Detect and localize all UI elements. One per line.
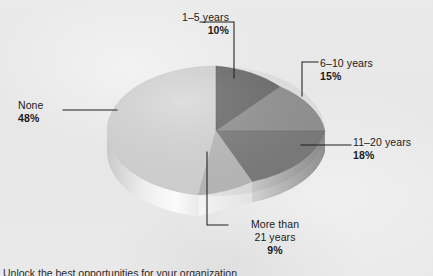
callout-label-11-20-years: 11–20 years 18% (353, 136, 431, 162)
callout-text-6-10-years: 6–10 years (320, 57, 425, 70)
callout-label-1-5-years: 1–5 years 10% (129, 11, 229, 37)
callout-text-more-than-21-line1: More than (232, 218, 318, 231)
callout-pct-more-than-21: 9% (232, 244, 318, 257)
callout-text-none: None (18, 99, 80, 112)
pie-top-shading (107, 66, 325, 196)
callout-pct-1-5-years: 10% (129, 24, 229, 37)
chart-area: 1–5 years 10% 6–10 years 15% 11–20 years… (0, 0, 433, 276)
callout-label-none: None 48% (18, 99, 80, 125)
pie-top-face (107, 66, 325, 196)
cropped-caption-text: Unlock the best opportunities for your o… (3, 268, 430, 276)
callout-text-1-5-years: 1–5 years (129, 11, 229, 24)
callout-pct-none: 48% (18, 112, 80, 125)
callout-pct-11-20-years: 18% (353, 149, 431, 162)
callout-text-11-20-years: 11–20 years (353, 136, 431, 149)
callout-label-6-10-years: 6–10 years 15% (320, 57, 425, 83)
callout-label-more-than-21-years: More than 21 years 9% (232, 218, 318, 256)
pie-chart-figure: 1–5 years 10% 6–10 years 15% 11–20 years… (0, 0, 433, 276)
callout-pct-6-10-years: 15% (320, 70, 425, 83)
callout-text-more-than-21-line2: 21 years (232, 231, 318, 244)
leader-line-6-10-years (302, 62, 318, 96)
